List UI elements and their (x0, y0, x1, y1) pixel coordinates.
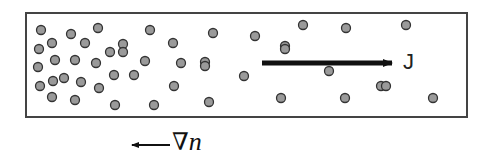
gradient-label: ∇n (172, 127, 202, 157)
diffusion-diagram (0, 0, 492, 165)
particle (201, 62, 210, 71)
particle (341, 94, 350, 103)
particle (141, 57, 150, 66)
particle (110, 71, 119, 80)
particle (325, 67, 334, 76)
particle (49, 77, 58, 86)
particle (429, 94, 438, 103)
particle (81, 39, 90, 48)
nabla-symbol: ∇ (172, 128, 189, 156)
particle (119, 48, 128, 57)
particle (169, 39, 178, 48)
particle (36, 82, 45, 91)
particle (67, 30, 76, 39)
particle (146, 26, 155, 35)
particle (48, 39, 57, 48)
particle (299, 21, 308, 30)
particle (60, 74, 69, 83)
particle (205, 98, 214, 107)
particle (94, 24, 103, 33)
density-variable: n (189, 127, 202, 156)
particle (92, 59, 101, 68)
particle (71, 56, 80, 65)
particle (130, 71, 139, 80)
particle (342, 24, 351, 33)
particle (277, 94, 286, 103)
particle (106, 48, 115, 57)
particle (240, 72, 249, 81)
particle (48, 93, 57, 102)
particle (95, 84, 104, 93)
particle (35, 45, 44, 54)
particle (150, 101, 159, 110)
particle (111, 101, 120, 110)
particle (382, 82, 391, 91)
particle (77, 78, 86, 87)
particle (34, 63, 43, 72)
particle (281, 45, 290, 54)
particle (209, 29, 218, 38)
particle (170, 82, 179, 91)
particle (177, 59, 186, 68)
particle (37, 26, 46, 35)
flux-label: J (403, 49, 414, 75)
particle (51, 56, 60, 65)
particle (251, 32, 260, 41)
particle (402, 21, 411, 30)
particle (71, 96, 80, 105)
